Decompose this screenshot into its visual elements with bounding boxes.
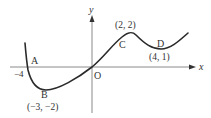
function-graph: y x O −4 A B (−3, −2) C (2, 2) D (4, 1): [0, 0, 211, 118]
origin-label: O: [94, 70, 101, 81]
point-b-label: B: [41, 89, 48, 100]
point-c-coords: (2, 2): [115, 20, 136, 31]
point-d-coords: (4, 1): [149, 52, 170, 63]
point-b-coords: (−3, −2): [27, 102, 58, 113]
point-c-label: C: [119, 39, 126, 50]
x-axis-label: x: [198, 61, 204, 72]
point-d-label: D: [157, 38, 164, 49]
y-axis-arrow-icon: [90, 15, 95, 22]
point-a-label: A: [31, 55, 39, 66]
y-axis-label: y: [88, 4, 94, 15]
x-intercept-label: −4: [14, 69, 24, 79]
x-axis-arrow-icon: [189, 65, 196, 70]
